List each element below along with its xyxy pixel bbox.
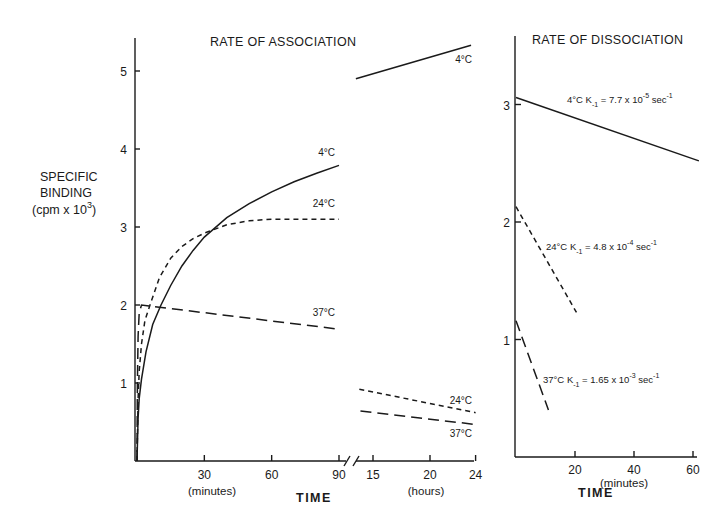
x-tick-label: 40 — [627, 463, 641, 477]
y-tick-label: 2 — [503, 216, 510, 230]
series-line-37c — [137, 305, 339, 461]
rate-constant-label: 4°C K-1 = 7.7 x 10-5 sec-1 — [567, 92, 673, 108]
association-hours-series: 4°C24°C37°C — [356, 45, 476, 439]
dissociation-line-37c — [516, 321, 548, 410]
y-tick-label: 1 — [120, 377, 127, 391]
x-tick-label-hours: 20 — [423, 468, 437, 482]
hours-series-label: 37°C — [450, 428, 472, 439]
series-line-24c — [137, 219, 339, 461]
y-axis-label-line1: SPECIFIC — [40, 170, 98, 184]
x-tick-label: 60 — [686, 463, 700, 477]
dissociation-title: RATE OF DISSOCIATION — [532, 33, 683, 47]
dissociation-line-24c — [516, 207, 576, 313]
binding-kinetics-figure: RATE OF ASSOCIATION RATE OF DISSOCIATION… — [0, 0, 727, 528]
y-tick-label: 4 — [120, 143, 127, 157]
time-label-association: TIME — [296, 491, 332, 505]
series-label: 37°C — [313, 307, 335, 318]
rate-constant-label: 37°C K-1 = 1.65 x 10-3 sec-1 — [543, 372, 659, 388]
x-tick-label: 60 — [265, 468, 279, 482]
x-tick-label: 90 — [332, 468, 346, 482]
y-tick-label: 2 — [120, 299, 127, 313]
series-line-4c — [137, 165, 339, 461]
series-label: 4°C — [318, 147, 335, 158]
y-axis-label-line2: BINDING — [40, 186, 92, 200]
minutes-label-association: (minutes) — [188, 485, 236, 497]
association-axes: 12345306090152024 — [120, 38, 482, 482]
hours-series-label: 4°C — [455, 54, 472, 65]
x-tick-label: 30 — [198, 468, 212, 482]
x-tick-label-hours: 24 — [469, 468, 483, 482]
y-axis-label-line3: (cpm x 103) — [32, 200, 96, 217]
x-tick-label: 20 — [568, 463, 582, 477]
y-tick-label: 3 — [503, 99, 510, 113]
association-series: 4°C24°C37°C — [137, 147, 339, 461]
y-tick-label: 1 — [503, 334, 510, 348]
rate-constant-label: 24°C K-1 = 4.8 x 10-4 sec-1 — [546, 239, 657, 255]
time-label-dissociation: TIME — [578, 486, 614, 500]
dissociation-line-4c — [516, 97, 699, 160]
hours-line-37c — [360, 411, 474, 424]
hours-series-label: 24°C — [450, 395, 472, 406]
dissociation-series: 4°C K-1 = 7.7 x 10-5 sec-124°C K-1 = 4.8… — [516, 92, 699, 410]
hours-label: (hours) — [408, 485, 445, 497]
y-tick-label: 3 — [120, 221, 127, 235]
hours-line-4c — [356, 45, 471, 79]
series-label: 24°C — [313, 198, 335, 209]
x-tick-label-hours: 15 — [366, 468, 380, 482]
y-tick-label: 5 — [120, 65, 127, 79]
association-title: RATE OF ASSOCIATION — [210, 35, 356, 49]
